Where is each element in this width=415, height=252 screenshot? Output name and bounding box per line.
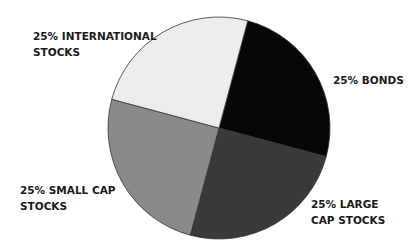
label-line: 25% LARGE — [311, 196, 385, 212]
label-international-stocks: 25% INTERNATIONAL STOCKS — [33, 28, 157, 60]
label-line: 25% SMALL CAP — [20, 182, 116, 198]
label-line: CAP STOCKS — [311, 212, 385, 228]
label-line: STOCKS — [33, 44, 157, 60]
label-line: 25% BONDS — [333, 72, 404, 88]
label-line: 25% INTERNATIONAL — [33, 28, 157, 44]
label-line: STOCKS — [20, 198, 116, 214]
label-bonds: 25% BONDS — [333, 72, 404, 88]
label-small-cap-stocks: 25% SMALL CAP STOCKS — [20, 182, 116, 214]
label-large-cap-stocks: 25% LARGE CAP STOCKS — [311, 196, 385, 228]
